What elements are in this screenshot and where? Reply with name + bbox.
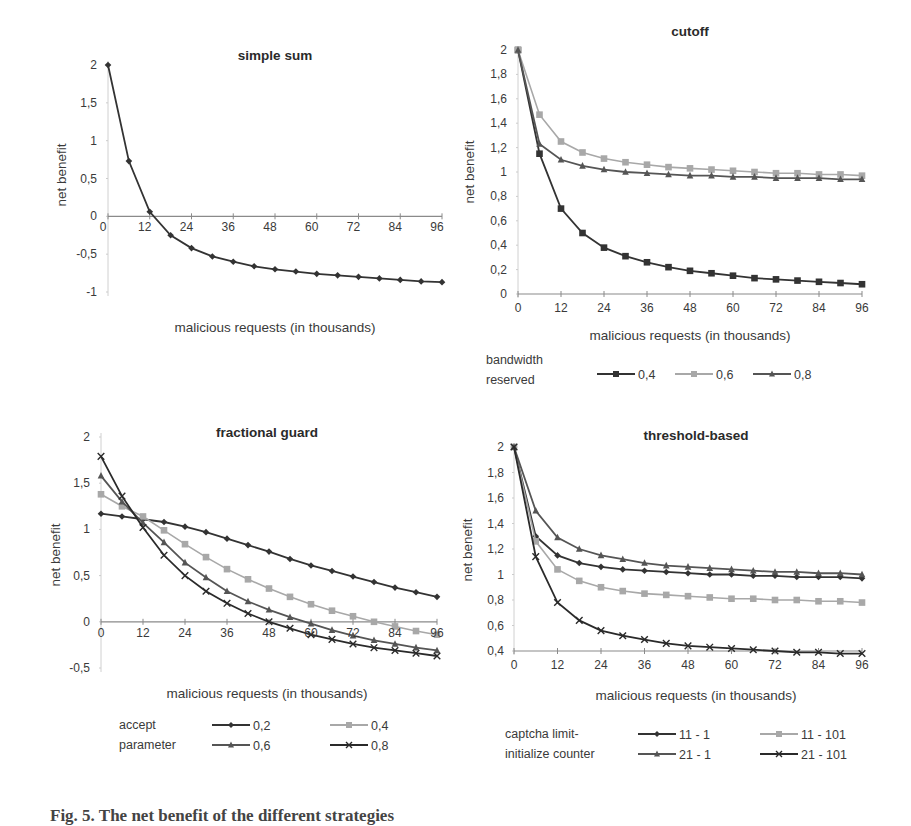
legend-item: 21 - 101 bbox=[760, 748, 847, 762]
x-tick-label: 12 bbox=[138, 220, 152, 234]
y-tick-label: 1,6 bbox=[487, 491, 504, 505]
data-point-marker bbox=[203, 554, 210, 561]
data-point-marker bbox=[554, 599, 561, 606]
chart-title: threshold-based bbox=[643, 428, 748, 443]
y-tick-label: 0,4 bbox=[490, 238, 507, 252]
data-point-marker bbox=[334, 272, 341, 279]
data-point-marker bbox=[685, 570, 692, 577]
data-point-marker bbox=[228, 722, 234, 728]
legend-item: 0,4 bbox=[597, 368, 655, 382]
data-point-marker bbox=[439, 279, 446, 286]
data-point-marker bbox=[230, 258, 237, 265]
legend-item: 0,6 bbox=[212, 739, 270, 753]
legend-label: 0,4 bbox=[638, 368, 655, 382]
data-point-marker bbox=[598, 564, 605, 571]
legend: bandwidthreserved0,40,60,8 bbox=[486, 353, 811, 387]
data-point-marker bbox=[751, 275, 758, 282]
y-tick-label: 2 bbox=[500, 43, 507, 57]
x-tick-label: 36 bbox=[640, 301, 654, 315]
data-point-marker bbox=[730, 272, 737, 279]
data-point-marker bbox=[245, 576, 252, 583]
series-11-101 bbox=[511, 444, 866, 606]
data-point-marker bbox=[308, 562, 315, 569]
x-tick-label: 84 bbox=[389, 220, 403, 234]
x-tick-label: 24 bbox=[178, 626, 192, 640]
x-tick-label: 48 bbox=[681, 658, 695, 672]
legend-label: 0,8 bbox=[371, 739, 388, 753]
x-tick-label: 72 bbox=[768, 658, 782, 672]
data-point-marker bbox=[371, 619, 378, 626]
data-point-marker bbox=[98, 491, 105, 498]
data-point-marker bbox=[329, 607, 336, 614]
x-axis-label: malicious requests (in thousands) bbox=[166, 686, 367, 701]
y-tick-label: 0,5 bbox=[80, 172, 97, 186]
chart-title: simple sum bbox=[238, 48, 312, 63]
data-point-marker bbox=[837, 598, 844, 605]
data-point-marker bbox=[313, 271, 320, 278]
series-line bbox=[518, 50, 862, 179]
data-point-marker bbox=[182, 523, 189, 530]
x-tick-label: 60 bbox=[726, 301, 740, 315]
x-tick-label: 24 bbox=[594, 658, 608, 672]
y-tick-label: 1,5 bbox=[80, 96, 97, 110]
chart-title: cutoff bbox=[671, 24, 709, 39]
x-tick-label: 72 bbox=[769, 301, 783, 315]
x-tick-label: 36 bbox=[220, 626, 234, 640]
data-point-marker bbox=[576, 617, 583, 624]
x-axis-label: malicious requests (in thousands) bbox=[174, 320, 375, 335]
x-axis-label: malicious requests (in thousands) bbox=[589, 328, 790, 343]
data-point-marker bbox=[287, 556, 294, 563]
data-point-marker bbox=[355, 274, 362, 281]
data-point-marker bbox=[418, 278, 425, 285]
data-point-marker bbox=[98, 472, 105, 479]
x-tick-label: 48 bbox=[683, 301, 697, 315]
data-point-marker bbox=[706, 571, 713, 578]
data-point-marker bbox=[776, 731, 782, 737]
y-tick-label: 1 bbox=[90, 134, 97, 148]
data-point-marker bbox=[663, 592, 670, 599]
x-tick-label: 48 bbox=[263, 220, 277, 234]
y-tick-label: 1,6 bbox=[490, 92, 507, 106]
data-point-marker bbox=[601, 155, 608, 162]
legend-label: 0,6 bbox=[253, 739, 270, 753]
data-point-marker bbox=[728, 595, 735, 602]
data-point-marker bbox=[665, 164, 672, 171]
data-point-marker bbox=[413, 589, 420, 596]
data-point-marker bbox=[622, 159, 629, 166]
data-point-marker bbox=[266, 548, 273, 555]
data-point-marker bbox=[126, 158, 133, 165]
y-tick-label: 0,6 bbox=[490, 214, 507, 228]
legend-title: initialize counter bbox=[505, 747, 595, 761]
legend-title: accept bbox=[119, 718, 156, 732]
legend: acceptparameter0,20,40,60,8 bbox=[119, 718, 388, 753]
data-point-marker bbox=[203, 574, 210, 581]
legend-label: 11 - 1 bbox=[679, 728, 710, 742]
data-point-marker bbox=[161, 527, 168, 534]
data-point-marker bbox=[209, 253, 216, 260]
y-tick-label: 0 bbox=[83, 615, 90, 629]
series-simple-sum bbox=[105, 62, 446, 286]
legend-label: 21 - 101 bbox=[801, 748, 847, 762]
data-point-marker bbox=[644, 259, 651, 266]
figure-caption: Fig. 5. The net benefit of the different… bbox=[50, 806, 394, 826]
series-21-101 bbox=[511, 444, 866, 657]
data-point-marker bbox=[350, 613, 357, 620]
y-tick-label: 0,4 bbox=[487, 644, 504, 658]
legend-label: 11 - 101 bbox=[801, 728, 846, 742]
data-point-marker bbox=[663, 569, 670, 576]
legend-item: 21 - 1 bbox=[638, 748, 711, 762]
series-line bbox=[101, 514, 437, 597]
data-point-marker bbox=[224, 535, 231, 542]
series-line bbox=[101, 494, 437, 634]
x-tick-label: 84 bbox=[812, 301, 826, 315]
legend: captcha limit-initialize counter11 - 111… bbox=[505, 727, 847, 762]
data-point-marker bbox=[619, 566, 626, 573]
chart-simple-sum: simple sum21,510,50-0,5-1012243648607284… bbox=[54, 48, 445, 335]
y-tick-label: 2 bbox=[83, 430, 90, 444]
y-tick-label: 1,8 bbox=[490, 67, 507, 81]
data-point-marker bbox=[576, 578, 583, 585]
y-tick-label: 0,5 bbox=[73, 569, 90, 583]
x-tick-label: 12 bbox=[551, 658, 565, 672]
data-point-marker bbox=[140, 513, 147, 520]
data-point-marker bbox=[601, 244, 608, 251]
